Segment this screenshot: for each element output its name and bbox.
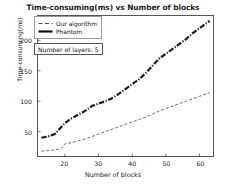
annotation-number-of-layers: Number of layers: 5 (34, 43, 103, 55)
y-tick-label: 150 (10, 67, 32, 74)
legend-item-our-algorithm[interactable]: Our algorithm (38, 20, 97, 28)
x-tick-label: 20 (51, 160, 77, 167)
tick-marks (38, 40, 200, 156)
legend-swatch-dashed (38, 20, 53, 27)
legend-label-our-algorithm: Our algorithm (56, 20, 97, 28)
y-tick-label: 100 (10, 98, 32, 105)
legend-label-phantom: Phantom (56, 28, 82, 36)
legend-swatch-solid (38, 28, 53, 35)
x-tick-label: 40 (119, 160, 145, 167)
legend[interactable]: Our algorithm Phantom (34, 16, 102, 39)
data-series-layer (41, 21, 209, 151)
y-tick-label: 50 (10, 129, 32, 136)
y-tick-labels: 50100150200 (0, 0, 37, 184)
legend-item-phantom[interactable]: Phantom (38, 28, 97, 36)
chart-figure: Time-consuming(ms) vs Number of blocks T… (0, 0, 226, 184)
x-tick-label: 30 (85, 160, 111, 167)
x-tick-label: 50 (153, 160, 179, 167)
x-axis-label: Number of blocks (0, 171, 226, 179)
x-tick-label: 60 (187, 160, 213, 167)
y-tick-label: 200 (10, 36, 32, 43)
